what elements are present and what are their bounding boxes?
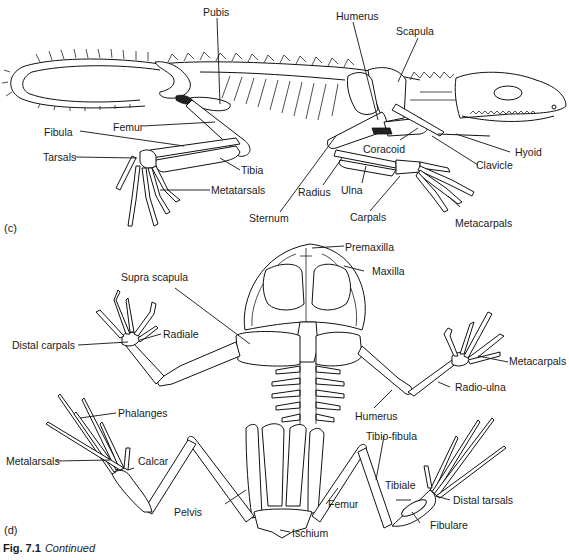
frog-suprascapula-left	[236, 332, 300, 367]
frog-right-radio-ulna	[408, 360, 458, 396]
label-frog-radio-ulna: Radio-ulna	[455, 381, 506, 393]
label-lizard-sternum: Sternum	[249, 212, 289, 224]
lizard-tarsals-bone	[140, 150, 156, 168]
frog-suprascapula-right	[316, 332, 362, 366]
label-frog-calcar: Calcar	[138, 455, 168, 467]
frog-urostyle	[262, 424, 306, 506]
frog-skeleton	[46, 244, 506, 538]
label-frog-fibulare: Fibulare	[430, 519, 468, 531]
label-lizard-tarsals: Tarsals	[43, 151, 76, 163]
label-lizard-coracoid: Coracoid	[363, 143, 405, 155]
frog-right-humerus	[358, 346, 412, 394]
lizard-orbit	[494, 86, 522, 100]
lizard-cervical-vertebrae	[410, 72, 456, 100]
caption-number: Fig. 7.1	[3, 542, 41, 554]
label-lizard-humerus: Humerus	[336, 10, 379, 22]
label-frog-distal-tarsals: Distal tarsals	[453, 494, 513, 506]
label-frog-premaxilla: Premaxilla	[345, 241, 394, 253]
lizard-hyoid-bone	[438, 134, 490, 136]
label-lizard-fibula: Fibula	[44, 126, 73, 138]
label-lizard-pubis: Pubis	[203, 6, 229, 18]
lizard-dorsal-vertebrae	[168, 52, 354, 67]
label-frog-pelvis: Pelvis	[174, 506, 202, 518]
frog-left-tibio-fibula	[144, 440, 196, 514]
caption-text: Continued	[45, 542, 95, 554]
label-lizard-scapula: Scapula	[396, 25, 434, 37]
label-frog-tibiale: Tibiale	[385, 479, 416, 491]
lizard-fore-foot	[396, 160, 474, 212]
label-frog-phalanges: Phalanges	[118, 407, 168, 419]
frog-right-foot	[424, 418, 506, 498]
label-lizard-ulna: Ulna	[341, 184, 363, 196]
frog-left-humerus	[158, 342, 240, 386]
panel-d-label: (d)	[4, 524, 17, 536]
label-frog-metatarsals: Metalarsals	[6, 455, 60, 467]
frog-orbit-right	[312, 264, 351, 310]
label-frog-radiale: Radiale	[163, 328, 199, 340]
label-frog-ischium: Ischium	[292, 527, 328, 539]
label-frog-maxilla: Maxilla	[372, 265, 405, 277]
panel-c-label: (c)	[4, 222, 17, 234]
label-frog-distal-carpals: Distal carpals	[12, 339, 75, 351]
label-frog-tibio-fibula: Tibio-fibula	[366, 430, 417, 442]
skeleton-illustrations	[0, 0, 569, 560]
frog-transverse-processes	[272, 366, 344, 422]
lizard-skeleton	[2, 49, 566, 226]
frog-ilium-left	[246, 424, 262, 518]
frog-left-hand	[96, 290, 158, 342]
label-lizard-carpals: Carpals	[350, 211, 386, 223]
label-lizard-metacarpals: Metacarpals	[455, 217, 512, 229]
label-frog-metacarpals: Metacarpals	[509, 355, 566, 367]
label-lizard-femur: Femur	[113, 121, 143, 133]
label-lizard-radius: Radius	[298, 186, 331, 198]
frog-left-tarsus	[112, 470, 152, 512]
label-lizard-clavicle: Clavicle	[476, 159, 513, 171]
label-lizard-metatarsals: Metatarsals	[211, 184, 265, 196]
label-lizard-tibia: Tibia	[241, 164, 263, 176]
lizard-ribs	[222, 76, 338, 120]
figure-caption: Fig. 7.1Continued	[3, 542, 95, 554]
label-frog-humerus: Humerus	[355, 410, 398, 422]
label-frog-femur: Femur	[328, 498, 358, 510]
label-frog-supra-scapula: Supra scapula	[121, 271, 188, 283]
frog-orbit-left	[263, 264, 304, 310]
label-lizard-hyoid: Hyoid	[515, 146, 542, 158]
figure: (c) Pubis Humerus Scapula Femur Fibula T…	[0, 0, 569, 560]
lizard-ilium	[155, 62, 190, 98]
frog-left-radio-ulna	[126, 344, 164, 384]
